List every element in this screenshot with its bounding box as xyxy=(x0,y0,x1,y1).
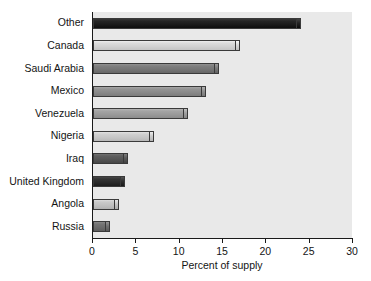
bar xyxy=(93,86,206,97)
bar-cap xyxy=(183,108,188,119)
category-label: Angola xyxy=(51,198,84,209)
bar-cap xyxy=(235,40,240,51)
x-axis-tick xyxy=(265,238,266,243)
category-label: Russia xyxy=(52,221,84,232)
bar-cap xyxy=(296,18,301,29)
bars-layer xyxy=(93,12,352,238)
bar xyxy=(93,131,154,142)
bar xyxy=(93,63,219,74)
x-axis-tick xyxy=(179,238,180,243)
bar-cap xyxy=(149,131,154,142)
x-axis-title: Percent of supply xyxy=(92,259,352,271)
bar-cap xyxy=(201,86,206,97)
x-axis-tick-label: 0 xyxy=(89,245,95,257)
x-axis-tick-label: 25 xyxy=(303,245,315,257)
bar xyxy=(93,153,128,164)
category-axis-labels: OtherCanadaSaudi ArabiaMexicoVenezuelaNi… xyxy=(0,12,88,238)
bar-cap xyxy=(114,199,119,210)
category-label: Iraq xyxy=(66,153,84,164)
bar xyxy=(93,176,125,187)
x-axis-tick-label: 15 xyxy=(216,245,228,257)
plot-area xyxy=(92,12,352,238)
bar-cap xyxy=(120,176,125,187)
x-axis-tick-label: 30 xyxy=(346,245,358,257)
bar-cap xyxy=(105,221,110,232)
x-axis-tick xyxy=(92,238,93,243)
x-axis-tick-label: 10 xyxy=(173,245,185,257)
x-axis-tick xyxy=(352,238,353,243)
bar-cap xyxy=(214,63,219,74)
category-label: Other xyxy=(58,17,84,28)
category-label: Venezuela xyxy=(35,108,84,119)
x-axis-tick xyxy=(222,238,223,243)
category-label: United Kingdom xyxy=(9,176,84,187)
category-label: Canada xyxy=(47,40,84,51)
category-label: Saudi Arabia xyxy=(24,63,84,74)
bar xyxy=(93,221,110,232)
x-axis-tick xyxy=(309,238,310,243)
x-axis-tick xyxy=(135,238,136,243)
x-axis-tick-label: 20 xyxy=(259,245,271,257)
bar xyxy=(93,199,119,210)
category-label: Nigeria xyxy=(51,130,84,141)
bar xyxy=(93,40,240,51)
x-axis-tick-label: 5 xyxy=(132,245,138,257)
category-label: Mexico xyxy=(51,85,84,96)
bar xyxy=(93,108,188,119)
bar-cap xyxy=(123,153,128,164)
bar xyxy=(93,18,301,29)
bar-chart: OtherCanadaSaudi ArabiaMexicoVenezuelaNi… xyxy=(0,0,371,281)
